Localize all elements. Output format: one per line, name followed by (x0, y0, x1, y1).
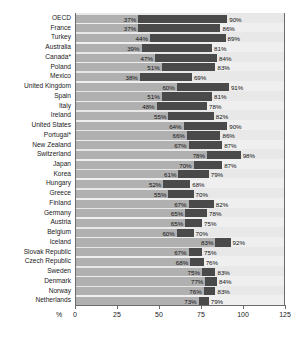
bar-row: 83%92% (76, 237, 284, 247)
bar-row: 61%79% (76, 169, 284, 179)
bar-row: 60%91% (76, 81, 284, 91)
bar-row: 37%86% (76, 23, 284, 33)
x-axis-tick-label: 125 (279, 309, 291, 320)
category-label: Switzerland (37, 149, 71, 159)
category-label: Korea (53, 169, 71, 179)
category-label: Portugal* (44, 130, 71, 140)
category-label: Denmark (44, 276, 71, 286)
bar-row: 70%87% (76, 159, 284, 169)
bar-row: 68%76% (76, 256, 284, 266)
category-label: Japan (53, 159, 71, 169)
bar-row: 78%98% (76, 149, 284, 159)
category-label: Turkey (51, 32, 71, 42)
bar-row: 48%78% (76, 101, 284, 111)
category-label: Sweden (47, 266, 71, 276)
bar-row: 51%83% (76, 62, 284, 72)
bar-row: 44%89% (76, 32, 284, 42)
x-axis-unit-label: % (56, 309, 62, 320)
category-label: Canada* (45, 52, 71, 62)
bar-row: 64%90% (76, 120, 284, 130)
category-label: Greece (49, 188, 71, 198)
category-label: Austria (50, 217, 71, 227)
bar-row: 65%78% (76, 208, 284, 218)
bar-row: 52%68% (76, 178, 284, 188)
bar-row: 75%83% (76, 266, 284, 276)
bar-row: 66%86% (76, 130, 284, 140)
bar-row: 67%82% (76, 198, 284, 208)
bar-row: 37%90% (76, 13, 284, 23)
x-axis-tick-label: 25 (113, 309, 121, 320)
bar-row: 76%83% (76, 286, 284, 296)
bar-row: 73%79% (76, 295, 284, 305)
category-label: United Kingdom (24, 81, 71, 91)
category-label: Hungary (46, 178, 71, 188)
bar-row: 65%75% (76, 217, 284, 227)
category-label: Poland (50, 62, 71, 72)
bar-row: 47%84% (76, 52, 284, 62)
bar-row: 55%82% (76, 110, 284, 120)
x-axis-tick-label: 100 (237, 309, 249, 320)
category-label: Mexico (50, 71, 71, 81)
bar-value-label-lower: 73% (184, 296, 198, 308)
category-label: Czech Republic (25, 256, 71, 266)
bar-row: 51%81% (76, 91, 284, 101)
category-label: Belgium (47, 227, 71, 237)
category-label: Finland (49, 198, 71, 208)
x-axis-tick-label: 75 (197, 309, 205, 320)
category-label: France (50, 23, 71, 33)
plot-area: 37%90%37%86%44%89%39%81%47%84%51%83%38%6… (75, 13, 285, 305)
category-label: Australia (45, 42, 71, 52)
category-label: Norway (49, 286, 71, 296)
bar-value-label-upper: 79% (209, 296, 223, 308)
category-label: OECD (52, 13, 71, 23)
bar-row: 55%70% (76, 188, 284, 198)
x-axis-tick-label: 0 (73, 309, 77, 320)
category-label: Spain (54, 91, 71, 101)
category-label: New Zealand (32, 140, 71, 150)
x-axis-line (75, 305, 285, 306)
category-label: Slovak Republic (24, 247, 71, 257)
category-label: Ireland (51, 110, 71, 120)
category-label: Italy (59, 101, 71, 111)
category-label: United States (31, 120, 71, 130)
category-label: Netherlands (35, 295, 71, 305)
bar-row: 60%70% (76, 227, 284, 237)
category-label: Iceland (50, 237, 71, 247)
bar-row: 77%84% (76, 276, 284, 286)
bar-row: 67%87% (76, 140, 284, 150)
bar-row: 67%75% (76, 247, 284, 257)
bar-row: 38%69% (76, 71, 284, 81)
bar-chart: OECDFranceTurkeyAustraliaCanada*PolandMe… (0, 0, 298, 351)
x-axis-tick-label: 50 (155, 309, 163, 320)
bar-row: 39%81% (76, 42, 284, 52)
category-label: Germany (44, 208, 71, 218)
